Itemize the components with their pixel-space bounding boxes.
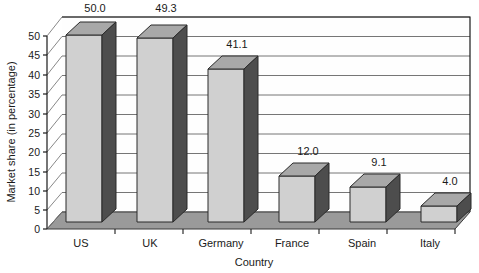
y-tick-label: 15 — [28, 166, 40, 178]
bar-value-label: 50.0 — [84, 2, 105, 14]
bar-front-face — [137, 38, 173, 222]
x-axis-category-labels: US UK Germany France Spain Italy — [73, 237, 440, 249]
bar-uk[interactable] — [137, 25, 187, 222]
bar-chart-figure: 0 5 10 15 20 25 30 35 40 45 50 — [0, 0, 479, 273]
bar-front-face — [208, 69, 244, 222]
chart-canvas: 0 5 10 15 20 25 30 35 40 45 50 — [0, 0, 479, 273]
bar-front-face — [279, 176, 315, 222]
y-tick-label: 10 — [28, 185, 40, 197]
bar-spain[interactable] — [350, 174, 400, 222]
bar-value-label: 12.0 — [297, 145, 318, 157]
y-tick-label: 20 — [28, 146, 40, 158]
y-tick-label: 25 — [28, 127, 40, 139]
x-tick-label: Germany — [198, 237, 244, 249]
y-tick-label: 30 — [28, 108, 40, 120]
bar-side-face — [102, 22, 116, 222]
x-axis-title: Country — [235, 256, 274, 268]
y-tick-label: 40 — [28, 69, 40, 81]
y-axis-tick-labels: 0 5 10 15 20 25 30 35 40 45 50 — [28, 30, 40, 235]
x-tick-label: Spain — [348, 237, 376, 249]
y-tick-label: 0 — [34, 223, 40, 235]
x-tick-label: France — [275, 237, 309, 249]
bar-value-label: 9.1 — [371, 156, 386, 168]
bar-side-face — [173, 25, 187, 222]
y-tick-label: 50 — [28, 30, 40, 42]
y-tick-label: 5 — [34, 204, 40, 216]
bar-germany[interactable] — [208, 56, 258, 222]
y-tick-label: 35 — [28, 88, 40, 100]
bar-value-label: 41.1 — [226, 38, 247, 50]
y-tick-label: 45 — [28, 49, 40, 61]
x-tick-label: Italy — [420, 237, 441, 249]
x-tick-label: UK — [142, 237, 158, 249]
bar-us[interactable] — [66, 22, 116, 222]
bar-side-face — [244, 56, 258, 222]
bar-france[interactable] — [279, 163, 329, 222]
bar-value-label: 49.3 — [155, 2, 176, 14]
y-axis-title: Market share (in percentage) — [5, 61, 17, 202]
bar-value-label: 4.0 — [442, 175, 457, 187]
x-tick-label: US — [73, 237, 88, 249]
bar-front-face — [421, 206, 457, 222]
bar-front-face — [66, 35, 102, 222]
depth-guides — [47, 17, 62, 229]
bar-front-face — [350, 187, 386, 222]
x-axis-ticks — [115, 229, 455, 234]
